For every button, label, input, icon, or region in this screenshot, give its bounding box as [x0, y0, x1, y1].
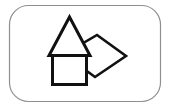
- figure-canvas: Overlapping geometric shapes diagram Hou…: [0, 0, 171, 112]
- house-square-body-shape: [53, 56, 87, 85]
- shapes-illustration: [0, 0, 171, 112]
